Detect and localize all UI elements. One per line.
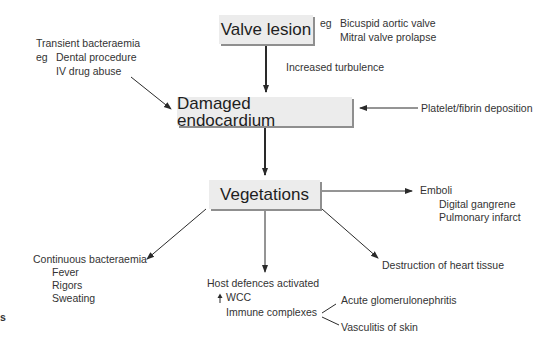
valve-eg-item: Bicuspid aortic valve <box>340 17 436 31</box>
node-damaged-endocardium: Damaged endocardium <box>177 97 352 126</box>
arrow-transient-to-damaged <box>131 77 171 109</box>
node-vegetations: Vegetations <box>209 180 320 209</box>
arrow-vegetations-to-continuous <box>147 209 206 259</box>
transient-title: Transient bacteraemia <box>36 37 140 51</box>
transient-eg-prefix: eg <box>36 51 48 65</box>
continuous-item: Rigors <box>52 279 82 293</box>
continuous-title: Continuous bacteraemia <box>33 253 147 267</box>
branch-to-vasculitis <box>322 317 339 325</box>
immune-label: Immune complexes <box>226 306 317 320</box>
immune-outcome: Vasculitis of skin <box>341 321 418 335</box>
node-label: Vegetations <box>220 186 309 203</box>
turbulence-label: Increased turbulence <box>286 61 384 75</box>
destruction-label: Destruction of heart tissue <box>382 259 504 273</box>
emboli-item: Pulmonary infarct <box>439 211 521 225</box>
node-label: Valve lesion <box>221 21 311 38</box>
arrow-vegetations-to-destruction <box>322 209 378 258</box>
continuous-item: Fever <box>52 266 79 280</box>
valve-eg-prefix: eg <box>320 17 332 31</box>
emboli-title: Emboli <box>420 184 452 198</box>
platelet-label: Platelet/fibrin deposition <box>421 102 533 116</box>
host-title: Host defences activated <box>207 277 319 291</box>
emboli-item: Digital gangrene <box>439 198 515 212</box>
branch-to-glomerulonephritis <box>322 304 336 313</box>
immune-outcome: Acute glomerulonephritis <box>341 294 457 308</box>
node-label: Damaged endocardium <box>177 95 352 129</box>
node-valve-lesion: Valve lesion <box>219 15 313 44</box>
transient-item: IV drug abuse <box>56 65 121 79</box>
valve-eg-item: Mitral valve prolapse <box>340 31 436 45</box>
transient-item: Dental procedure <box>56 51 137 65</box>
wcc-label: WCC <box>226 291 251 305</box>
continuous-item: Sweating <box>52 292 95 306</box>
stray-fragment: s <box>0 311 6 325</box>
